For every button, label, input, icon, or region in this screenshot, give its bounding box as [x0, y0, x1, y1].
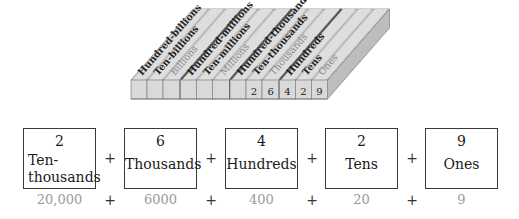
place-box-ones: 9 Ones — [425, 128, 498, 189]
place-digit: 9 — [316, 86, 322, 97]
label-line-2: thousands — [28, 169, 95, 186]
place-cell — [197, 80, 213, 99]
place-value-amount: 20 — [325, 192, 398, 207]
place-cell — [230, 80, 246, 99]
plus-sign: + — [100, 150, 120, 166]
place-box-hundreds: 4 Hundreds — [225, 128, 298, 189]
place-value-amount: 20,000 — [23, 192, 96, 207]
place-value-amount: 9 — [425, 192, 498, 207]
place-digit: 2 — [251, 86, 257, 97]
place-label: Ten- thousands — [24, 152, 95, 186]
digit: 6 — [125, 133, 196, 149]
place-value-amount: 400 — [225, 192, 298, 207]
digit: 2 — [326, 133, 397, 149]
label-line-1: Ten- — [28, 152, 95, 169]
plus-sign: + — [100, 192, 120, 208]
plus-sign: + — [302, 192, 322, 208]
place-digit: 2 — [300, 86, 306, 97]
plus-sign: + — [402, 192, 422, 208]
place-value-chart: Hundred-billionsTen-billionsBillionsHund… — [0, 0, 519, 110]
plus-sign: + — [201, 192, 221, 208]
place-digit: 4 — [284, 86, 290, 97]
place-label: Tens — [326, 156, 397, 173]
place-cell — [147, 80, 163, 99]
place-label: Thousands — [125, 156, 196, 173]
place-box-tens: 2 Tens — [325, 128, 398, 189]
place-cell — [213, 80, 231, 99]
digit: 2 — [24, 133, 95, 149]
place-label: Hundreds — [226, 156, 297, 173]
place-cell — [163, 80, 181, 99]
place-digit: 6 — [268, 86, 274, 97]
plus-sign: + — [402, 150, 422, 166]
plus-sign: + — [302, 150, 322, 166]
place-box-ten-thousands: 2 Ten- thousands — [23, 128, 96, 189]
place-label: Ones — [426, 156, 497, 173]
place-value-amount: 6000 — [124, 192, 197, 207]
digit: 4 — [226, 133, 297, 149]
place-cell — [131, 80, 147, 99]
place-box-thousands: 6 Thousands — [124, 128, 197, 189]
place-cell — [181, 80, 197, 99]
plus-sign: + — [201, 150, 221, 166]
digit: 9 — [426, 133, 497, 149]
